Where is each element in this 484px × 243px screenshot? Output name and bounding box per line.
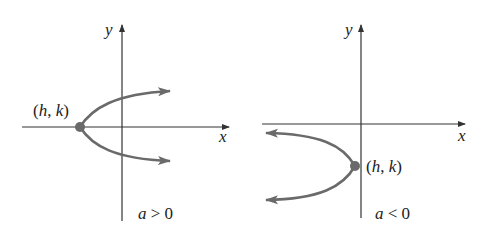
condition-label: a > 0 <box>138 204 173 223</box>
x-axis-label: x <box>457 126 466 145</box>
parabola-lower-branch <box>80 127 170 161</box>
vertex-label: (h, k) <box>33 101 69 120</box>
vertex-label: (h, k) <box>366 157 402 176</box>
panel-left: y x (h, k) a > 0 <box>22 20 229 223</box>
parabola-lower-branch <box>266 166 355 200</box>
vertex-point <box>350 161 360 171</box>
condition-label: a < 0 <box>375 204 410 223</box>
x-axis-label: x <box>218 127 227 146</box>
parabola-upper-branch <box>80 91 170 127</box>
y-axis-label: y <box>343 20 353 39</box>
vertex-point <box>75 122 85 132</box>
panel-right: y x (h, k) a < 0 <box>262 20 466 223</box>
parabola-upper-branch <box>266 133 355 166</box>
parabola-diagram: y x (h, k) a > 0 y x (h, k) a < 0 <box>0 0 484 243</box>
y-axis-label: y <box>103 20 113 39</box>
